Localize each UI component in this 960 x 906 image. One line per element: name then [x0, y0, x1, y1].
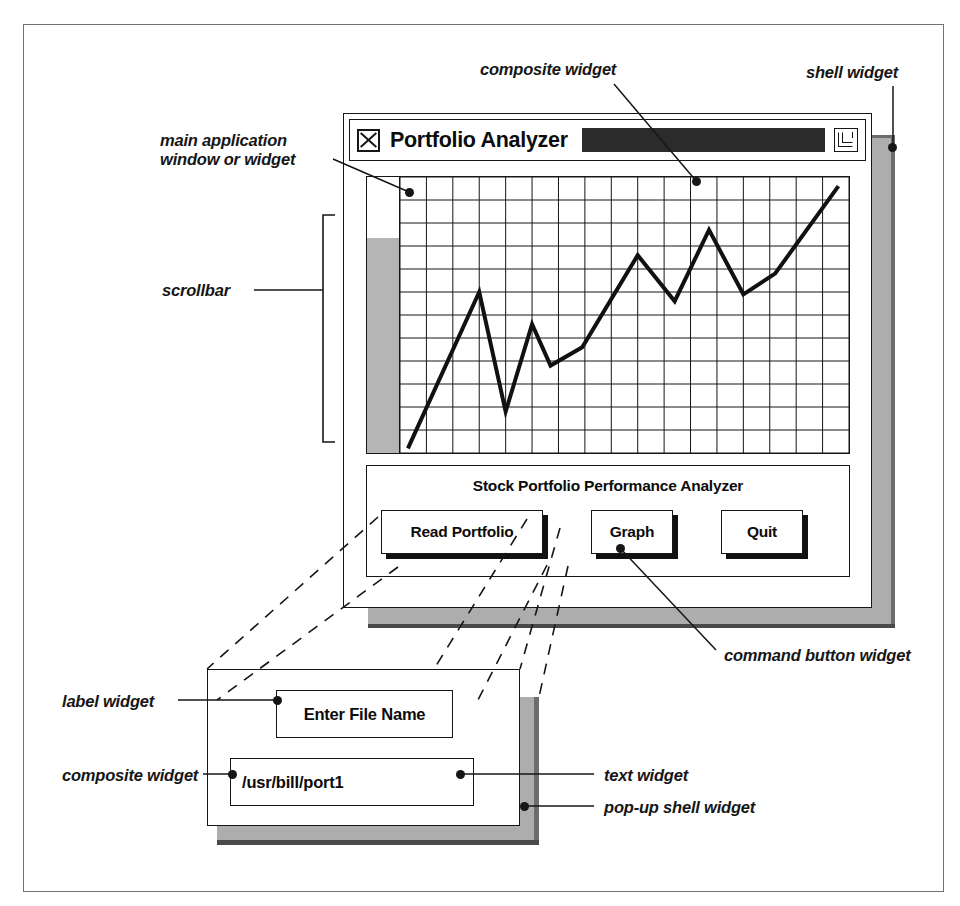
- annotation-shell-widget: shell widget: [806, 63, 898, 82]
- button-row: Read Portfolio Graph Quit: [381, 510, 835, 554]
- annotation-label-widget: label widget: [62, 692, 154, 711]
- annotation-composite-widget: composite widget: [480, 60, 616, 79]
- titlebar-fill-bar: [582, 128, 825, 152]
- window-menu-icon-layer-3: [838, 132, 853, 138]
- dot-popup-shell: [520, 802, 529, 811]
- enter-file-name-label: Enter File Name: [276, 690, 453, 738]
- plot-chart: [400, 177, 849, 453]
- popup-shell-right-bevel: [534, 697, 539, 845]
- dot-label-widget: [273, 696, 282, 705]
- dot-main-window: [405, 188, 414, 197]
- window-menu-icon[interactable]: [834, 128, 858, 152]
- popup-shell-bottom-bevel: [217, 840, 539, 845]
- dot-text-widget: [456, 770, 465, 779]
- data-line: [408, 186, 839, 448]
- annotation-main-application-window: main application window or widget: [160, 131, 295, 169]
- shell-widget-bottom-bevel: [368, 624, 895, 628]
- scrollbar-thumb[interactable]: [367, 238, 399, 453]
- dot-popup-composite: [228, 770, 237, 779]
- file-name-text-input[interactable]: /usr/bill/port1: [230, 758, 474, 806]
- scrollbar[interactable]: [367, 177, 400, 453]
- dot-command-button: [616, 544, 625, 553]
- dot-composite-widget: [692, 177, 701, 186]
- popup-dialog-composite[interactable]: Enter File Name /usr/bill/port1: [207, 669, 520, 826]
- titlebar[interactable]: Portfolio Analyzer: [349, 119, 866, 161]
- shell-widget-right-bevel: [891, 135, 895, 628]
- control-panel-composite: Stock Portfolio Performance Analyzer Rea…: [366, 465, 850, 577]
- annotation-popup-shell-widget: pop-up shell widget: [604, 798, 755, 817]
- window-x-icon[interactable]: [357, 129, 380, 152]
- annotation-text-widget: text widget: [604, 766, 688, 785]
- main-application-window[interactable]: Portfolio Analyzer Stock Portfolio Pe: [343, 113, 872, 608]
- annotation-scrollbar: scrollbar: [162, 281, 230, 300]
- quit-button[interactable]: Quit: [721, 510, 803, 554]
- app-title: Portfolio Analyzer: [390, 128, 568, 153]
- plot-area: [400, 177, 849, 453]
- chart-composite-widget[interactable]: [366, 176, 850, 454]
- control-panel-title: Stock Portfolio Performance Analyzer: [367, 477, 849, 495]
- dot-shell-widget: [888, 143, 897, 152]
- graph-button[interactable]: Graph: [591, 510, 673, 554]
- annotation-composite-widget-popup: composite widget: [62, 766, 198, 785]
- figure-canvas: Portfolio Analyzer Stock Portfolio Pe: [0, 0, 960, 906]
- read-portfolio-button[interactable]: Read Portfolio: [381, 510, 543, 554]
- annotation-command-button-widget: command button widget: [724, 646, 910, 665]
